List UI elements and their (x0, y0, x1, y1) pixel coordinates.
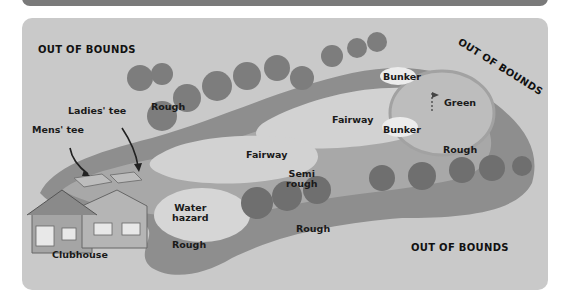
green-label: Green (444, 98, 476, 108)
out-of-bounds-label-bottom-right: OUT OF BOUNDS (411, 242, 509, 253)
golf-course-diagram: OUT OF BOUNDS OUT OF BOUNDS OUT OF BOUND… (22, 18, 548, 290)
clubhouse-label: Clubhouse (52, 250, 108, 260)
semi-rough-label-line2: rough (286, 178, 318, 189)
top-bar (22, 0, 548, 6)
bunker-label-lower: Bunker (383, 125, 421, 135)
bunker-label-top: Bunker (383, 72, 421, 82)
rough-label-right: Rough (443, 145, 477, 155)
out-of-bounds-label-top-left: OUT OF BOUNDS (38, 44, 136, 55)
rough-label-bottom-left: Rough (172, 240, 206, 250)
water-hazard-label-line2: hazard (172, 212, 209, 223)
rough-label-top-left: Rough (151, 102, 185, 112)
fairway-label-upper: Fairway (332, 115, 373, 125)
semi-rough-label: Semi rough (286, 169, 318, 189)
fairway-label-middle: Fairway (246, 150, 287, 160)
mens-tee-label: Mens' tee (32, 125, 84, 135)
rough-label-bottom-middle: Rough (296, 224, 330, 234)
ladies-tee-label: Ladies' tee (68, 106, 126, 116)
water-hazard-label: Water hazard (172, 203, 209, 223)
